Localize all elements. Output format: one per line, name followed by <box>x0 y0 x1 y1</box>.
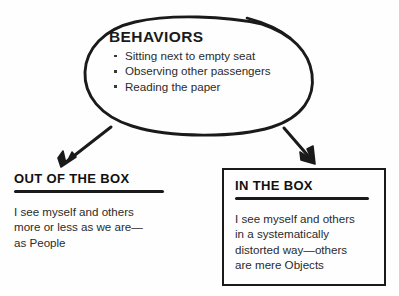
behaviors-group: BEHAVIORS Sitting next to empty seat Obs… <box>95 28 305 113</box>
diagram-canvas: BEHAVIORS Sitting next to empty seat Obs… <box>0 0 399 296</box>
out-of-the-box-heading: OUT OF THE BOX <box>14 172 189 187</box>
body-line: more or less as we are— <box>14 219 189 235</box>
behaviors-list: Sitting next to empty seat Observing oth… <box>95 48 305 94</box>
arrow-to-in-the-box-shape <box>284 128 315 164</box>
out-of-the-box-body: I see myself and others more or less as … <box>14 193 189 251</box>
body-line: distorted way—others <box>235 242 374 258</box>
body-line: I see myself and others <box>14 204 189 220</box>
arrow-to-out-of-the-box-shape <box>58 127 111 167</box>
out-of-the-box-column: OUT OF THE BOX I see myself and others m… <box>14 172 189 250</box>
in-the-box-body: I see myself and others in a systematica… <box>235 200 374 273</box>
behaviors-title: BEHAVIORS <box>109 28 305 45</box>
list-item: Reading the paper <box>113 79 305 94</box>
body-line: are mere Objects <box>235 257 374 273</box>
in-the-box-heading: IN THE BOX <box>235 179 374 194</box>
list-item: Sitting next to empty seat <box>113 48 305 63</box>
list-item: Observing other passengers <box>113 63 305 78</box>
body-line: as People <box>14 235 189 251</box>
body-line: I see myself and others <box>235 211 374 227</box>
body-line: in a systematically <box>235 226 374 242</box>
in-the-box-column: IN THE BOX I see myself and others in a … <box>222 168 386 286</box>
